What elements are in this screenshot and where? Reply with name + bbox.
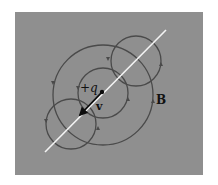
point-charge	[100, 90, 104, 94]
velocity-label: v	[95, 100, 103, 113]
field-label: B	[156, 93, 166, 107]
panel-background	[15, 12, 203, 175]
charge-label: +q	[80, 81, 98, 95]
diagram-canvas: +q v B	[0, 0, 218, 185]
